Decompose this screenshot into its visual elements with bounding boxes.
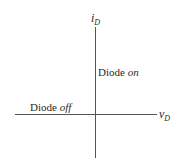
diode-off-label: Diode off bbox=[30, 102, 71, 113]
diode-on-label: Diode on bbox=[98, 67, 139, 78]
horizontal-axis bbox=[15, 114, 157, 115]
y-axis-label: iD bbox=[91, 12, 100, 27]
x-axis-label: vD bbox=[159, 108, 170, 123]
vertical-axis bbox=[95, 27, 96, 158]
